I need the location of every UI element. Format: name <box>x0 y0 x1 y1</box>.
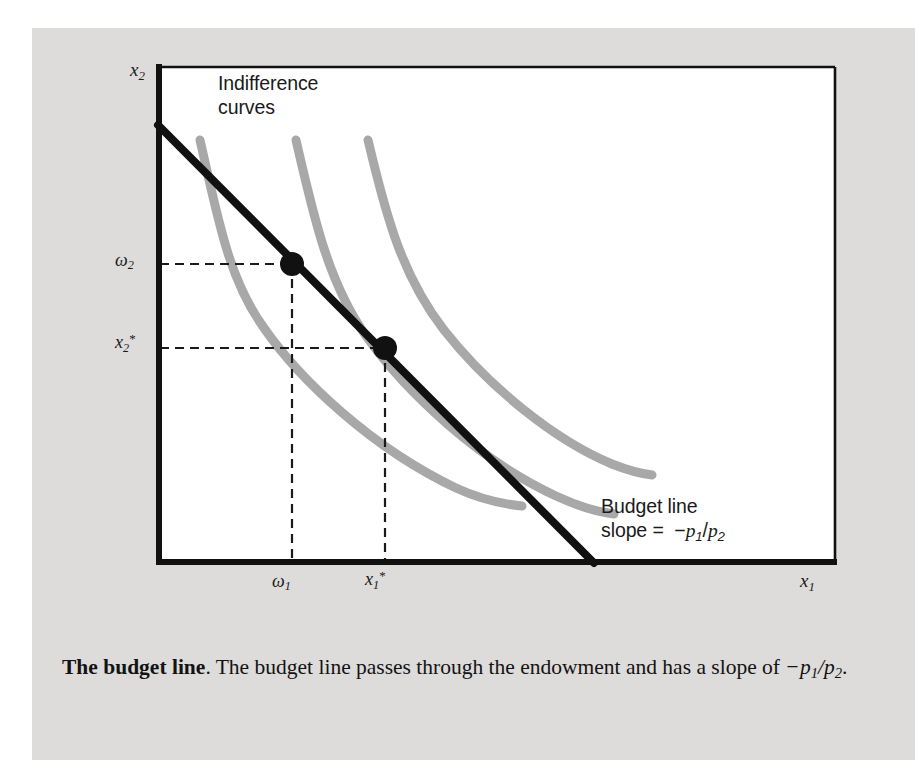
budget-line-chart <box>32 28 915 648</box>
y-tick-label-x2-star: x2* <box>115 331 136 356</box>
figure-area: x2 x1 Indifferencecurves Budget lineslop… <box>32 28 915 760</box>
optimal-choice-point[interactable] <box>373 336 397 360</box>
caption-p1: p <box>800 655 811 679</box>
caption-p1-sub: 1 <box>811 665 818 681</box>
caption-p2-sub: 2 <box>835 665 842 681</box>
page-background: x2 x1 Indifferencecurves Budget lineslop… <box>32 28 915 760</box>
x-tick-label-omega1: ω1 <box>272 571 291 594</box>
x-axis-label: x1 <box>800 569 815 594</box>
caption-title: The budget line <box>62 655 205 679</box>
figure-caption: The budget line. The budget line passes … <box>62 653 862 684</box>
indifference-curves-annotation: Indifferencecurves <box>218 72 318 120</box>
caption-end: . <box>842 655 847 679</box>
endowment-point[interactable] <box>280 252 304 276</box>
caption-minus: − <box>785 655 800 679</box>
x-tick-label-x1-star: x1* <box>365 568 386 593</box>
caption-p2: p <box>824 655 835 679</box>
y-axis-label: x2 <box>130 58 145 83</box>
budget-line-annotation: Budget lineslope = −p1/p2 <box>601 495 725 545</box>
caption-body: The budget line passes through the endow… <box>211 655 786 679</box>
y-tick-label-omega2: ω2 <box>115 250 134 273</box>
